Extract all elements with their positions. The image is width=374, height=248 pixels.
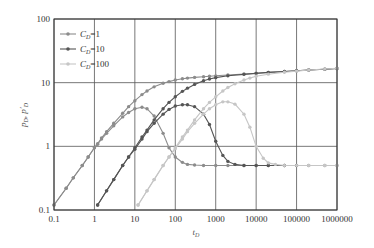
data-point-marker	[86, 155, 89, 158]
data-point-marker	[214, 164, 217, 167]
data-point-marker	[242, 112, 245, 115]
data-point-marker	[221, 100, 224, 103]
data-point-marker	[226, 100, 229, 103]
series-cd100-derivative	[136, 100, 338, 207]
data-point-marker	[307, 68, 310, 71]
legend-label: CD=10	[80, 44, 105, 55]
data-point-marker	[226, 86, 229, 89]
data-point-marker	[161, 82, 164, 85]
data-point-marker	[254, 145, 257, 148]
data-point-marker	[242, 73, 245, 76]
data-point-marker	[105, 189, 108, 192]
y-axis-label: pD, p′D	[18, 102, 29, 128]
x-tick-label: 1000000	[321, 214, 353, 224]
data-point-marker	[307, 164, 310, 167]
data-point-marker	[267, 161, 270, 164]
data-point-marker	[181, 137, 184, 140]
data-point-marker	[254, 75, 257, 78]
data-point-marker	[323, 164, 326, 167]
data-point-marker	[161, 164, 164, 167]
legend-item: CD=1	[60, 29, 100, 40]
legend-item: CD=10	[60, 44, 105, 55]
x-tick-label: 1	[92, 214, 97, 224]
data-point-marker	[193, 83, 196, 86]
legend: CD=1CD=10CD=100	[60, 29, 109, 70]
data-point-marker	[161, 132, 164, 135]
data-point-marker	[133, 107, 136, 110]
data-point-marker	[267, 72, 270, 75]
data-point-marker	[214, 95, 217, 98]
chart: 0.11101001000100001000001000000 0.111010…	[0, 0, 374, 248]
y-tick-label: 0.1	[39, 205, 50, 215]
x-tick-label: 1000	[207, 214, 226, 224]
data-point-marker	[193, 122, 196, 125]
data-point-marker	[145, 89, 148, 92]
data-point-marker	[283, 71, 286, 74]
x-axis-label: tD	[193, 227, 201, 238]
data-point-marker	[174, 78, 177, 81]
series-cd10-derivative	[96, 103, 298, 207]
data-point-marker	[254, 164, 257, 167]
data-point-marker	[283, 164, 286, 167]
data-point-marker	[186, 76, 189, 79]
data-point-marker	[181, 77, 184, 80]
data-point-marker	[186, 130, 189, 133]
data-point-marker	[121, 115, 124, 118]
y-axis-ticks: 0.1110100	[37, 14, 51, 215]
data-point-marker	[181, 161, 184, 164]
data-point-marker	[274, 163, 277, 166]
data-point-marker	[72, 176, 75, 179]
y-tick-label: 1	[46, 141, 51, 151]
data-point-marker	[167, 108, 170, 111]
data-point-marker	[112, 124, 115, 127]
data-point-marker	[133, 99, 136, 102]
series-cd100-pressure	[136, 67, 338, 207]
data-point-marker	[208, 107, 211, 110]
legend-item: CD=100	[60, 59, 109, 70]
data-point-marker	[202, 75, 205, 78]
data-point-marker	[161, 112, 164, 115]
data-point-marker	[202, 164, 205, 167]
data-point-marker	[112, 178, 115, 181]
data-point-marker	[152, 118, 155, 121]
data-point-marker	[233, 82, 236, 85]
data-point-marker	[81, 164, 84, 167]
data-point-marker	[93, 146, 96, 149]
data-point-marker	[167, 101, 170, 104]
data-point-marker	[233, 163, 236, 166]
data-point-marker	[100, 137, 103, 140]
data-point-marker	[152, 85, 155, 88]
x-tick-label: 100000	[283, 214, 311, 224]
data-point-marker	[226, 164, 229, 167]
data-point-marker	[214, 76, 217, 79]
data-point-marker	[127, 155, 130, 158]
data-point-marker	[193, 76, 196, 79]
series-cd1-pressure	[52, 67, 338, 207]
data-point-marker	[174, 147, 177, 150]
data-point-marker	[127, 105, 130, 108]
data-point-marker	[152, 122, 155, 125]
data-point-marker	[186, 86, 189, 89]
data-point-marker	[208, 123, 211, 126]
data-point-marker	[174, 155, 177, 158]
x-tick-label: 10000	[245, 214, 268, 224]
data-point-marker	[140, 106, 143, 109]
data-point-marker	[181, 90, 184, 93]
data-point-marker	[136, 203, 139, 206]
y-tick-label: 10	[41, 78, 51, 88]
data-point-marker	[323, 67, 326, 70]
y-tick-label: 100	[37, 14, 51, 24]
data-point-marker	[193, 163, 196, 166]
data-point-marker	[193, 105, 196, 108]
data-point-marker	[145, 107, 148, 110]
data-point-marker	[214, 140, 217, 143]
data-point-marker	[140, 137, 143, 140]
data-point-marker	[208, 101, 211, 104]
data-point-marker	[161, 107, 164, 110]
data-point-marker	[242, 78, 245, 81]
data-point-marker	[295, 69, 298, 72]
x-tick-label: 10	[130, 214, 140, 224]
data-point-marker	[121, 164, 124, 167]
x-tick-label: 0.1	[48, 214, 59, 224]
data-point-marker	[254, 72, 257, 75]
